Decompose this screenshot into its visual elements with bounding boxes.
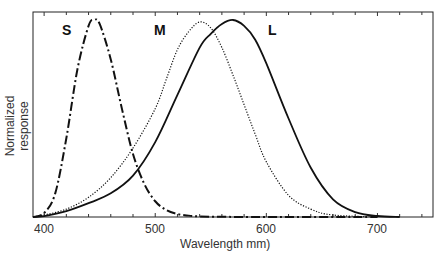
curve-label-s: S xyxy=(62,22,71,38)
x-axis-label: Wavelength mm) xyxy=(180,237,270,251)
axis-ticks xyxy=(44,12,422,217)
curve-l xyxy=(33,20,400,217)
plot-frame xyxy=(33,12,433,217)
y-axis-label: Normalized response xyxy=(3,71,31,181)
curve-m xyxy=(33,22,377,217)
x-tick-700: 700 xyxy=(357,222,397,236)
curve-label-m: M xyxy=(154,22,166,38)
curve-label-l: L xyxy=(268,22,277,38)
x-tick-600: 600 xyxy=(246,222,286,236)
curve-s xyxy=(33,19,377,217)
curves xyxy=(33,19,400,217)
x-tick-400: 400 xyxy=(24,222,64,236)
x-tick-500: 500 xyxy=(135,222,175,236)
spectral-response-chart xyxy=(0,0,445,260)
